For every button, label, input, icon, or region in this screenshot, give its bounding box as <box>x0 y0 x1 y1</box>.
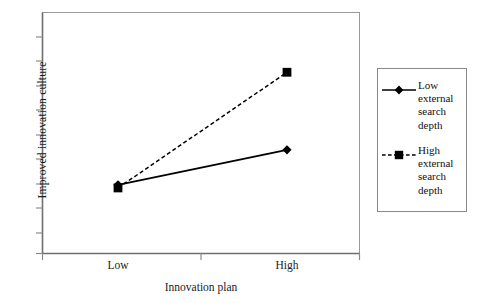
legend-label-line: external <box>418 157 466 170</box>
legend-label-line: external <box>418 92 466 105</box>
x-axis-title: Innovation plan <box>42 281 360 293</box>
legend-label-line: Low <box>418 79 466 92</box>
legend-label: High external search depth <box>418 144 466 197</box>
y-axis-title: Improved innovation culture <box>36 20 48 240</box>
legend-label-line: search <box>418 105 466 118</box>
plot-frame <box>43 13 360 254</box>
legend-sample-dashed-square <box>382 149 416 161</box>
legend-label-line: depth <box>418 184 466 197</box>
interaction-plot-figure: Improved innovation culture Innovation p… <box>0 0 481 303</box>
legend-box: Low external search depth High external … <box>377 68 467 212</box>
x-tick-label-high: High <box>257 259 317 271</box>
legend-label-line: depth <box>418 119 466 132</box>
legend-label-line: search <box>418 170 466 183</box>
legend-label-line: High <box>418 144 466 157</box>
square-marker <box>114 184 123 193</box>
legend-label: Low external search depth <box>418 79 466 132</box>
legend-sample-solid-diamond <box>382 84 416 96</box>
square-marker <box>283 68 292 77</box>
x-tick-label-low: Low <box>88 259 148 271</box>
